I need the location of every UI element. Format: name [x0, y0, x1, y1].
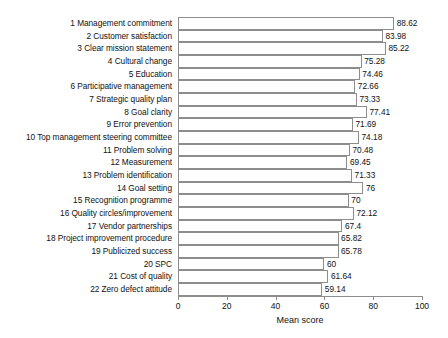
- category-label: 7 Strategic quality plan: [0, 93, 175, 106]
- category-label: 19 Publicized success: [0, 245, 175, 258]
- bar-row: 77.41: [178, 106, 422, 119]
- category-label: 2 Customer satisfaction: [0, 30, 175, 43]
- bar-value-label: 69.45: [347, 156, 370, 169]
- bar: [178, 270, 328, 283]
- bar-value-label: 70.48: [350, 144, 373, 157]
- x-axis-title: Mean score: [178, 315, 422, 325]
- x-axis-tick: [276, 296, 277, 300]
- bar: [178, 68, 360, 81]
- bar-row: 85.22: [178, 42, 422, 55]
- bar-value-label: 88.62: [394, 17, 417, 30]
- bar-value-label: 71.69: [353, 118, 376, 131]
- category-label: 9 Error prevention: [0, 118, 175, 131]
- plot-area: 88.6283.9885.2275.2874.4672.6673.3377.41…: [178, 17, 422, 296]
- bar-value-label: 65.82: [339, 232, 362, 245]
- bar-value-label: 61.64: [328, 270, 351, 283]
- category-label: 13 Problem identification: [0, 169, 175, 182]
- bar: [178, 169, 352, 182]
- bar: [178, 207, 354, 220]
- bar-row: 71.33: [178, 169, 422, 182]
- bar: [178, 220, 342, 233]
- bar-row: 71.69: [178, 118, 422, 131]
- category-label: 15 Recognition programme: [0, 194, 175, 207]
- category-label: 10 Top management steering committee: [0, 131, 175, 144]
- bar: [178, 118, 353, 131]
- bar-row: 75.28: [178, 55, 422, 68]
- bar: [178, 93, 357, 106]
- x-axis-tick: [373, 296, 374, 300]
- bar: [178, 30, 383, 43]
- category-label: 3 Clear mission statement: [0, 42, 175, 55]
- y-axis-line: [178, 17, 179, 296]
- bar-row: 65.82: [178, 232, 422, 245]
- bar: [178, 258, 324, 271]
- bar-row: 72.66: [178, 80, 422, 93]
- bar: [178, 156, 347, 169]
- category-label: 4 Cultural change: [0, 55, 175, 68]
- bar-row: 88.62: [178, 17, 422, 30]
- x-axis-line: [178, 296, 422, 297]
- category-label: 6 Participative management: [0, 80, 175, 93]
- category-label: 18 Project improvement procedure: [0, 232, 175, 245]
- bar-value-label: 72.66: [355, 80, 378, 93]
- bar: [178, 182, 363, 195]
- bar-value-label: 75.28: [362, 55, 385, 68]
- bar: [178, 144, 350, 157]
- category-label: 20 SPC: [0, 258, 175, 271]
- category-label: 14 Goal setting: [0, 182, 175, 195]
- bar: [178, 17, 394, 30]
- bar-value-label: 70: [349, 194, 361, 207]
- category-label: 12 Measurement: [0, 156, 175, 169]
- bar-row: 73.33: [178, 93, 422, 106]
- bar-row: 67.4: [178, 220, 422, 233]
- bar-row: 65.78: [178, 245, 422, 258]
- bar: [178, 42, 386, 55]
- x-axis-tick-label: 20: [222, 301, 231, 311]
- bar-value-label: 71.33: [352, 169, 375, 182]
- category-axis-labels: 1 Management commitment2 Customer satisf…: [0, 17, 175, 296]
- category-label: 11 Problem solving: [0, 144, 175, 157]
- bar: [178, 232, 339, 245]
- bar-row: 60: [178, 258, 422, 271]
- x-axis-tick-label: 60: [320, 301, 329, 311]
- category-label: 1 Management commitment: [0, 17, 175, 30]
- x-axis-tick: [324, 296, 325, 300]
- bar: [178, 131, 359, 144]
- bar: [178, 194, 349, 207]
- category-label: 21 Cost of quality: [0, 270, 175, 283]
- bar-row: 74.46: [178, 68, 422, 81]
- category-label: 17 Vendor partnerships: [0, 220, 175, 233]
- bar: [178, 80, 355, 93]
- bar-row: 69.45: [178, 156, 422, 169]
- bar-row: 59.14: [178, 283, 422, 296]
- bar-value-label: 65.78: [339, 245, 362, 258]
- bar-row: 61.64: [178, 270, 422, 283]
- category-label: 22 Zero defect attitude: [0, 283, 175, 296]
- bar-value-label: 74.46: [360, 68, 383, 81]
- category-label: 16 Quality circles/improvement: [0, 207, 175, 220]
- bar-value-label: 74.18: [359, 131, 382, 144]
- category-label: 8 Goal clarity: [0, 106, 175, 119]
- x-axis-tick-label: 40: [271, 301, 280, 311]
- horizontal-bar-chart: 1 Management commitment2 Customer satisf…: [0, 0, 448, 338]
- bar-value-label: 77.41: [367, 106, 390, 119]
- bar-row: 83.98: [178, 30, 422, 43]
- bar: [178, 245, 339, 258]
- bar: [178, 55, 362, 68]
- bar-value-label: 60: [324, 258, 336, 271]
- bar-value-label: 83.98: [383, 30, 406, 43]
- bar-value-label: 72.12: [354, 207, 377, 220]
- bar-value-label: 85.22: [386, 42, 409, 55]
- bar-row: 70: [178, 194, 422, 207]
- x-axis-tick-label: 0: [176, 301, 181, 311]
- bar-value-label: 73.33: [357, 93, 380, 106]
- bar-row: 74.18: [178, 131, 422, 144]
- bar-row: 70.48: [178, 144, 422, 157]
- bar-value-label: 76: [363, 182, 375, 195]
- x-axis-tick-label: 100: [415, 301, 429, 311]
- x-axis-tick: [227, 296, 228, 300]
- category-label: 5 Education: [0, 68, 175, 81]
- x-axis-tick-label: 80: [368, 301, 377, 311]
- bar-value-label: 59.14: [322, 283, 345, 296]
- x-axis-tick: [178, 296, 179, 300]
